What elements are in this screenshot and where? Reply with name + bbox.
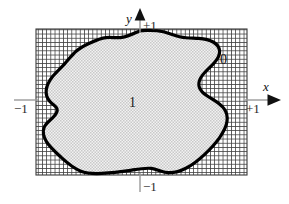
y-axis-label: y xyxy=(126,12,132,25)
y-axis-minus-one-tick-label: −1 xyxy=(143,180,157,193)
x-axis-plus-one-tick-label: +1 xyxy=(246,102,260,115)
x-axis-label: x xyxy=(263,80,269,93)
y-axis-plus-one-tick-label: +1 xyxy=(143,19,157,32)
figure-container: y +1 x +1 −1 −1 1 0 xyxy=(0,0,289,204)
outside-region-value-label: 0 xyxy=(220,53,227,67)
x-axis-arrowhead-icon xyxy=(268,94,282,106)
inside-region-value-label: 1 xyxy=(129,96,136,110)
x-axis-minus-one-tick-label: −1 xyxy=(14,102,28,115)
